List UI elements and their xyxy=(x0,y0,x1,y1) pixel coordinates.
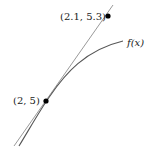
tangent-line xyxy=(14,5,113,146)
curve-label: f(x) xyxy=(126,37,144,48)
function-curve xyxy=(19,41,123,146)
tangent-point xyxy=(105,13,110,18)
tangency-point xyxy=(43,98,48,103)
tangent-point-label: (2.1, 5.3) xyxy=(60,11,106,22)
tangency-point-label: (2, 5) xyxy=(13,95,40,106)
tangent-diagram: (2.1, 5.3) (2, 5) f(x) xyxy=(0,0,156,149)
